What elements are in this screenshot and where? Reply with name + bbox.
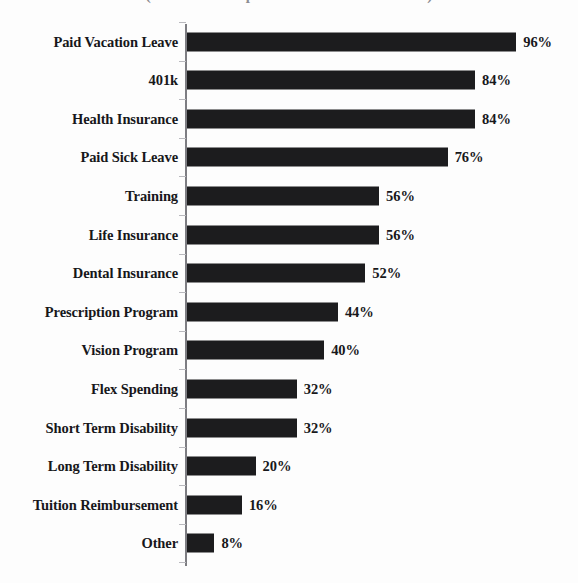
bar-value-label: 44% — [345, 303, 374, 320]
bar-fill — [187, 495, 242, 514]
bar-category-label: Other — [8, 535, 178, 551]
bar-chart-figure: (Percent of Respondents that Offer Benef… — [0, 0, 578, 583]
chart-title: (Percent of Respondents that Offer Benef… — [0, 0, 578, 4]
bar-fill — [187, 71, 475, 90]
axis-tick — [179, 292, 186, 293]
bar-value-label: 76% — [455, 149, 484, 166]
bar-value-label: 56% — [386, 187, 415, 204]
axis-tick — [179, 99, 186, 100]
bar — [187, 264, 365, 283]
bar — [187, 341, 324, 360]
bar-value-label: 84% — [482, 72, 511, 89]
bar-value-label: 84% — [482, 110, 511, 127]
bar-fill — [187, 264, 365, 283]
axis-tick — [179, 408, 186, 409]
bar-row: Flex Spending32% — [0, 369, 578, 408]
bar-fill — [187, 148, 448, 167]
bar-category-label: 401k — [8, 72, 178, 88]
bar-fill — [187, 32, 516, 51]
bar-row: Training56% — [0, 176, 578, 215]
bar-value-label: 20% — [263, 458, 292, 475]
bar-row: Other8% — [0, 524, 578, 563]
bar — [187, 379, 297, 398]
axis-tick — [179, 22, 186, 23]
bar-category-label: Paid Sick Leave — [8, 149, 178, 165]
bar-category-label: Prescription Program — [8, 304, 178, 320]
bar — [187, 225, 379, 244]
bar — [187, 148, 448, 167]
bar-fill — [187, 186, 379, 205]
bar-row: Prescription Program44% — [0, 292, 578, 331]
axis-tick — [179, 524, 186, 525]
bar-fill — [187, 341, 324, 360]
bar — [187, 457, 256, 476]
axis-tick — [179, 562, 186, 563]
bar-fill — [187, 457, 256, 476]
axis-tick — [179, 447, 186, 448]
bar-value-label: 32% — [304, 380, 333, 397]
bar-row: Life Insurance56% — [0, 215, 578, 254]
bar-category-label: Tuition Reimbursement — [8, 497, 178, 513]
bar-fill — [187, 302, 338, 321]
bar-fill — [187, 225, 379, 244]
bar-value-label: 40% — [331, 342, 360, 359]
bar-value-label: 96% — [523, 33, 552, 50]
axis-tick — [179, 215, 186, 216]
bar — [187, 418, 297, 437]
bar-row: Paid Sick Leave76% — [0, 138, 578, 177]
bar-fill — [187, 379, 297, 398]
bar-value-label: 56% — [386, 226, 415, 243]
bar — [187, 534, 214, 553]
axis-tick — [179, 254, 186, 255]
plot-area: Paid Vacation Leave96%401k84%Health Insu… — [0, 22, 578, 567]
axis-tick — [179, 176, 186, 177]
bar — [187, 495, 242, 514]
bar-value-label: 32% — [304, 419, 333, 436]
bar-row: Long Term Disability20% — [0, 447, 578, 486]
bar-row: Tuition Reimbursement16% — [0, 485, 578, 524]
bar-row: 401k84% — [0, 61, 578, 100]
bar — [187, 109, 475, 128]
bar — [187, 71, 475, 90]
axis-tick — [179, 138, 186, 139]
bar-row: Short Term Disability32% — [0, 408, 578, 447]
bar-category-label: Life Insurance — [8, 227, 178, 243]
bar — [187, 32, 516, 51]
bar-category-label: Health Insurance — [8, 111, 178, 127]
bar — [187, 302, 338, 321]
bar-row: Vision Program40% — [0, 331, 578, 370]
bar-fill — [187, 418, 297, 437]
axis-tick — [179, 61, 186, 62]
bar-value-label: 16% — [249, 496, 278, 513]
axis-tick — [179, 485, 186, 486]
bar-row: Dental Insurance52% — [0, 254, 578, 293]
axis-tick — [179, 331, 186, 332]
bar-category-label: Short Term Disability — [8, 420, 178, 436]
bar-category-label: Vision Program — [8, 342, 178, 358]
bar-fill — [187, 534, 214, 553]
bar-row: Health Insurance84% — [0, 99, 578, 138]
bar-value-label: 8% — [221, 535, 243, 552]
bar-row: Paid Vacation Leave96% — [0, 22, 578, 61]
axis-tick — [179, 369, 186, 370]
bar — [187, 186, 379, 205]
bar-category-label: Long Term Disability — [8, 458, 178, 474]
bar-category-label: Dental Insurance — [8, 265, 178, 281]
bar-category-label: Paid Vacation Leave — [8, 34, 178, 50]
bar-category-label: Flex Spending — [8, 381, 178, 397]
bar-category-label: Training — [8, 188, 178, 204]
bar-value-label: 52% — [372, 265, 401, 282]
bar-fill — [187, 109, 475, 128]
